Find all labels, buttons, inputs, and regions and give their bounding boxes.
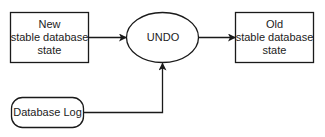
new-state-line2: stable database bbox=[11, 31, 89, 44]
arrow-log-to-undo bbox=[84, 64, 163, 113]
new-state-line3: state bbox=[38, 44, 62, 57]
new-state-line1: New bbox=[38, 18, 60, 31]
db-log-label: Database Log bbox=[11, 97, 84, 128]
old-state-line2: stable database bbox=[236, 31, 314, 44]
old-state-line3: state bbox=[263, 44, 287, 57]
old-state-line1: Old bbox=[266, 18, 283, 31]
undo-label: UNDO bbox=[127, 12, 199, 63]
new-state-label: New stable database state bbox=[10, 12, 89, 63]
old-state-label: Old stable database state bbox=[235, 12, 314, 63]
